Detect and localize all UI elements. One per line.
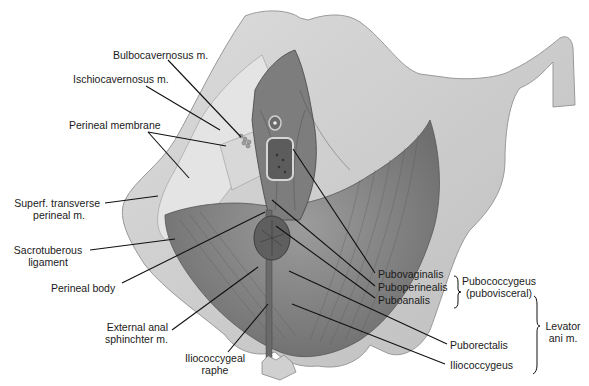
label-pubovaginalis: Pubovaginalis	[378, 268, 443, 280]
label-puborectalis: Puborectalis	[450, 339, 508, 351]
label-ext-anal-line1: External anal	[88, 321, 168, 333]
label-external-anal-sphincter: External anal sphinchter m.	[88, 321, 168, 345]
label-pubococcygeus-line1: Pubococcygeus	[459, 275, 539, 287]
label-puboanalis: Puboanalis	[378, 294, 430, 306]
label-superf-transverse-line2: perineal m.	[10, 209, 100, 221]
label-perineal-body: Perineal body	[51, 282, 115, 294]
label-pubococcygeus-line2: (pubovisceral)	[459, 287, 539, 299]
levator-ani-bracket	[533, 296, 540, 374]
label-sacrotuberous-line2: ligament	[12, 256, 84, 268]
label-puboperinealis: Puboperinealis	[378, 281, 447, 293]
label-iliococcygeus: Iliococcygeus	[450, 359, 513, 371]
label-iliococcygeal-raphe-line2: raphe	[176, 364, 254, 376]
label-bulbocavernosus: Bulbocavernosus m.	[113, 49, 208, 61]
label-superf-transverse-line1: Superf. transverse	[10, 197, 100, 209]
vaginal-opening	[267, 138, 293, 180]
label-ischiocavernosus: Ischiocavernosus m.	[73, 73, 169, 85]
label-ext-anal-line2: sphinchter m.	[88, 333, 168, 345]
label-iliococcygeal-raphe: Iliococcygeal raphe	[176, 352, 254, 376]
label-sacrotuberous-line1: Sacrotuberous	[12, 244, 84, 256]
label-levator-line2: ani m.	[541, 332, 585, 344]
label-sacrotuberous: Sacrotuberous ligament	[12, 244, 84, 268]
label-perineal-membrane: Perineal membrane	[69, 119, 161, 131]
label-levator-line1: Levator	[541, 320, 585, 332]
label-iliococcygeal-raphe-line1: Iliococcygeal	[176, 352, 254, 364]
label-superf-transverse: Superf. transverse perineal m.	[10, 197, 100, 221]
label-levator-ani: Levator ani m.	[541, 320, 585, 344]
label-pubococcygeus: Pubococcygeus (pubovisceral)	[459, 275, 539, 299]
